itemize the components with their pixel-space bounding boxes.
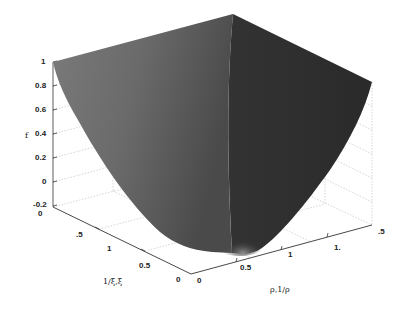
x-tick: 0 [176,276,180,284]
surface-plot [0,0,406,309]
y-tick: 1 [288,251,292,259]
z-tick: 0.8 [35,82,46,90]
y-tick: 0.5 [240,264,251,272]
x-tick: 0 [38,210,42,218]
y-tick: 0 [197,277,201,285]
y-tick: .5 [378,228,385,236]
x-axis-label: 1/ξ,ξ [103,277,122,286]
surface-right-face [228,14,372,254]
z-tick: 0.6 [35,106,46,114]
z-tick: 0.2 [35,154,46,162]
x-tick: .5 [76,231,83,239]
x-tick: 1 [107,245,111,253]
z-tick: 0 [42,178,46,186]
y-axis-label: ρ,1/ρ [270,285,290,294]
z-tick: 0.4 [35,130,46,138]
y-tick: 1. [334,244,341,252]
x-tick: 0.5 [139,262,150,270]
surface-left-face [53,14,233,253]
z-tick: 1 [41,58,45,66]
z-axis-label: f [25,131,28,140]
surface-bottom-highlight [212,224,268,256]
z-tick: -0.2 [33,201,47,209]
